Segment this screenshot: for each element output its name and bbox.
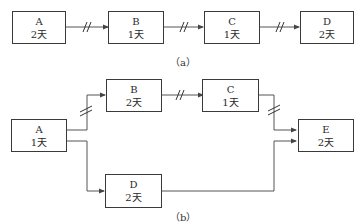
caption-a: （a） <box>170 54 196 69</box>
edge-b-A-D <box>66 141 104 191</box>
node-a-A: A 2天 <box>12 11 66 44</box>
node-a-C: C 1天 <box>204 11 260 44</box>
node-duration: 2天 <box>31 28 47 41</box>
node-duration: 2天 <box>319 28 335 41</box>
node-duration: 1天 <box>222 96 238 109</box>
node-name: E <box>322 123 329 136</box>
node-name: C <box>228 15 236 28</box>
node-duration: 2天 <box>126 96 142 109</box>
edge-b-C-E <box>258 95 296 130</box>
edge-b-D-E <box>161 141 296 191</box>
node-b-A: A 1天 <box>11 119 67 152</box>
edge-b-A-B <box>66 95 105 130</box>
node-b-D: D 2天 <box>105 174 162 208</box>
node-duration: 2天 <box>318 136 334 149</box>
node-name: D <box>323 15 331 28</box>
caption-b: （b） <box>170 209 196 224</box>
node-duration: 1天 <box>224 28 240 41</box>
node-b-E: E 2天 <box>298 119 354 152</box>
node-a-B: B 1天 <box>108 11 164 44</box>
node-name: D <box>129 178 137 191</box>
node-a-D: D 2天 <box>300 11 354 44</box>
node-name: C <box>227 83 235 96</box>
node-b-C: C 1天 <box>202 79 259 112</box>
node-name: A <box>35 123 42 136</box>
node-duration: 1天 <box>128 28 144 41</box>
node-name: B <box>130 83 137 96</box>
node-duration: 1天 <box>31 136 47 149</box>
node-name: B <box>132 15 139 28</box>
node-name: A <box>35 15 42 28</box>
node-duration: 2天 <box>125 191 141 204</box>
node-b-B: B 2天 <box>106 79 162 112</box>
